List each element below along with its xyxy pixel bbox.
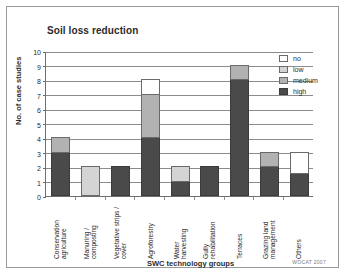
bar-segment-medium[interactable] xyxy=(51,137,70,153)
x-tick-mark xyxy=(134,197,135,200)
bar-6[interactable] xyxy=(200,51,219,196)
x-tick-mark xyxy=(75,197,76,200)
bar-7[interactable] xyxy=(230,51,249,196)
y-tick-label: 3 xyxy=(37,150,41,157)
y-tick-mark xyxy=(43,52,46,53)
bar-segment-high[interactable] xyxy=(200,166,219,196)
x-axis-title: SWC technology groups xyxy=(147,259,234,268)
y-tick-label: 5 xyxy=(37,121,41,128)
y-tick-label: 1 xyxy=(37,179,41,186)
y-tick-mark xyxy=(43,182,46,183)
legend-item-low[interactable]: low xyxy=(279,64,341,75)
plot-area: 012345678910 xyxy=(45,52,313,197)
y-tick-label: 6 xyxy=(37,107,41,114)
x-tick-label: Others xyxy=(295,239,302,259)
legend: nolowmediumhigh xyxy=(279,53,341,97)
figure-frame: Soil loss reduction No. of case studies … xyxy=(6,6,339,268)
bar-5[interactable] xyxy=(171,51,190,196)
chart-title: Soil loss reduction xyxy=(47,25,138,36)
x-tick-label: Waterharvesting xyxy=(173,229,188,259)
bar-segment-medium[interactable] xyxy=(230,65,249,81)
legend-item-medium[interactable]: medium xyxy=(279,75,341,86)
chart-screenshot: Soil loss reduction No. of case studies … xyxy=(0,0,346,279)
y-tick-mark xyxy=(43,110,46,111)
y-tick-label: 7 xyxy=(37,92,41,99)
x-tick-mark xyxy=(253,197,254,200)
y-tick-mark xyxy=(43,124,46,125)
y-tick-label: 2 xyxy=(37,165,41,172)
bar-segment-medium[interactable] xyxy=(260,152,279,168)
x-tick-mark xyxy=(105,197,106,200)
x-tick-label: Terraces xyxy=(236,234,243,259)
y-tick-label: 0 xyxy=(37,194,41,201)
bar-1[interactable] xyxy=(51,51,70,196)
credit-text: WOCAT 2007 xyxy=(292,259,326,265)
x-tick-label: Conservationagriculture xyxy=(53,220,68,259)
legend-swatch-no xyxy=(279,55,288,62)
bar-4[interactable] xyxy=(141,51,160,196)
bar-segment-no[interactable] xyxy=(141,79,160,95)
y-tick-mark xyxy=(43,81,46,82)
y-tick-label: 10 xyxy=(33,49,41,56)
y-tick-label: 9 xyxy=(37,63,41,70)
legend-label-high: high xyxy=(293,88,306,95)
bar-segment-low[interactable] xyxy=(81,166,100,196)
x-tick-label: Gullyrehabilitation xyxy=(202,222,217,259)
legend-swatch-medium xyxy=(279,77,288,84)
bar-segment-medium[interactable] xyxy=(141,94,160,139)
y-axis-title: No. of case studies xyxy=(14,57,23,125)
bar-segment-high[interactable] xyxy=(141,137,160,196)
legend-item-high[interactable]: high xyxy=(279,86,341,97)
bar-segment-high[interactable] xyxy=(290,173,309,196)
legend-swatch-high xyxy=(279,88,288,95)
legend-label-medium: medium xyxy=(293,77,318,84)
y-tick-mark xyxy=(43,153,46,154)
bar-segment-low[interactable] xyxy=(171,166,190,182)
bar-2[interactable] xyxy=(81,51,100,196)
bar-segment-high[interactable] xyxy=(230,79,249,196)
x-tick-mark xyxy=(164,197,165,200)
legend-label-low: low xyxy=(293,66,304,73)
legend-swatch-low xyxy=(279,66,288,73)
bar-segment-high[interactable] xyxy=(260,166,279,196)
bar-segment-high[interactable] xyxy=(171,181,190,197)
y-tick-mark xyxy=(43,139,46,140)
x-tick-mark xyxy=(224,197,225,200)
y-tick-mark xyxy=(43,197,46,198)
y-tick-mark xyxy=(43,168,46,169)
y-tick-label: 4 xyxy=(37,136,41,143)
x-tick-mark xyxy=(283,197,284,200)
y-tick-label: 8 xyxy=(37,78,41,85)
bar-segment-high[interactable] xyxy=(51,152,70,197)
bar-segment-no[interactable] xyxy=(290,152,309,175)
bar-3[interactable] xyxy=(111,51,130,196)
x-tick-label: Manuring /composting xyxy=(83,225,98,259)
y-tick-mark xyxy=(43,66,46,67)
legend-item-no[interactable]: no xyxy=(279,53,341,64)
bar-8[interactable] xyxy=(260,51,279,196)
bar-segment-high[interactable] xyxy=(111,166,130,196)
x-tick-label: Vegetative strips /cover xyxy=(113,207,128,259)
legend-label-no: no xyxy=(293,55,301,62)
x-tick-label: Grazing landmanagement xyxy=(262,221,277,260)
x-tick-label: Agroforestry xyxy=(147,223,154,259)
x-tick-mark xyxy=(194,197,195,200)
y-tick-mark xyxy=(43,95,46,96)
